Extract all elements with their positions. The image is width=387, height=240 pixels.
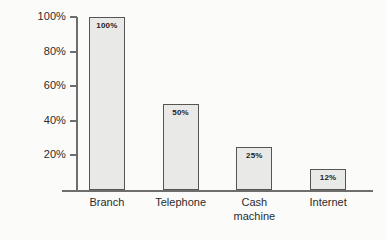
y-axis-tick-mark	[70, 120, 77, 122]
y-axis-tick-label: 20%	[22, 148, 66, 160]
y-axis-tick-label: 40%	[22, 114, 66, 126]
bar: 25%	[236, 147, 272, 190]
x-axis-line	[62, 190, 373, 192]
y-axis-tick-label: 60%	[22, 79, 66, 91]
bar-value-label: 50%	[164, 108, 198, 117]
y-axis-tick-labels: 20%40%60%80%100%	[16, 0, 66, 240]
bar-value-label: 100%	[90, 21, 124, 30]
bar-chart: 20%40%60%80%100% 100%50%25%12% BranchTel…	[0, 0, 387, 240]
x-axis-category-labels: BranchTelephoneCash machineInternet	[78, 195, 373, 240]
bar: 50%	[163, 104, 199, 191]
y-axis-tick-mark	[70, 154, 77, 156]
y-axis-tick-mark	[70, 51, 77, 53]
plot-area: 100%50%25%12%	[78, 17, 373, 190]
y-axis-tick-mark	[70, 16, 77, 18]
y-axis-tick-label: 80%	[22, 45, 66, 57]
bar: 100%	[89, 17, 125, 190]
bar-value-label: 12%	[311, 173, 345, 182]
y-axis-tick-mark	[70, 85, 77, 87]
bar: 12%	[310, 169, 346, 190]
bar-value-label: 25%	[237, 151, 271, 160]
y-axis-tick-label: 100%	[22, 10, 66, 22]
x-axis-category-label: Internet	[283, 195, 373, 209]
